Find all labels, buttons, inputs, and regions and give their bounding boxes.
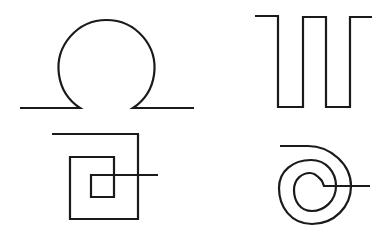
square-wave-shape bbox=[255, 16, 372, 107]
diagram-canvas bbox=[0, 0, 390, 235]
omega-loop-shape bbox=[20, 20, 194, 108]
square-spiral-shape bbox=[52, 134, 158, 219]
round-spiral-shape bbox=[279, 146, 370, 224]
shapes-figure bbox=[0, 0, 390, 235]
